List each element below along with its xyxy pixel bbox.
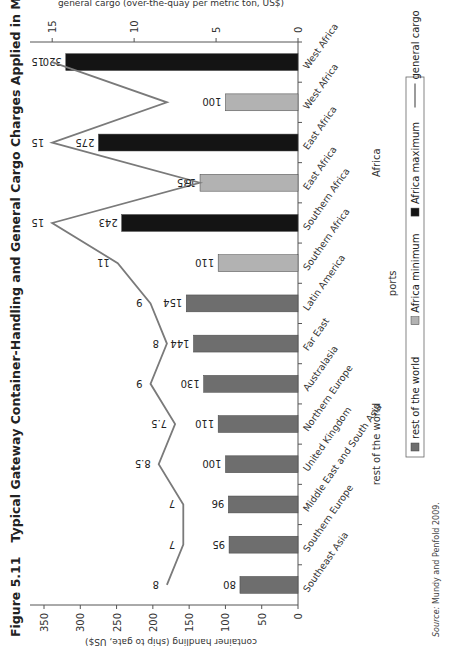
group-label-rest-of-world: rest of the world — [371, 403, 382, 485]
category-label: East Africa — [301, 104, 339, 152]
bar-united-kingdom — [225, 456, 298, 473]
bar-northern-europe — [218, 416, 298, 433]
bar-australasia — [204, 375, 298, 392]
cargo-value-label: 9 — [136, 297, 142, 308]
cargo-value-label: 7.5 — [151, 418, 167, 429]
bar-value-label: 154 — [163, 297, 182, 308]
y-tick-label: 250 — [112, 613, 123, 632]
bar-far-east — [193, 335, 298, 352]
rotated-figure-page: Figure 5.11Typical Gateway Container-Han… — [0, 0, 449, 657]
bar-east-africa — [200, 174, 298, 191]
bar-southern-africa — [122, 215, 298, 232]
legend-label: rest of the world — [410, 357, 421, 439]
cargo-value-label: 6 — [185, 177, 191, 188]
bar-value-label: 96 — [212, 498, 225, 509]
category-label: Northern Europe — [301, 362, 355, 433]
legend-label: Africa minimum — [410, 234, 421, 313]
cargo-value-label: 7 — [169, 498, 175, 509]
x-axis-title: ports — [387, 270, 398, 296]
category-label: Southern Europe — [301, 482, 356, 554]
bar-value-label: 243 — [99, 217, 118, 228]
cargo-value-label: 7 — [169, 539, 175, 550]
cargo-value-label: 8 — [153, 338, 159, 349]
cargo-value-label: 8.5 — [135, 458, 151, 469]
legend-swatch — [411, 443, 419, 451]
bar-value-label: 95 — [212, 539, 225, 550]
source-label: Source: — [432, 607, 441, 637]
y-tick-label: 350 — [39, 613, 50, 632]
bar-value-label: 110 — [195, 257, 214, 268]
bar-west-africa — [225, 94, 298, 111]
legend-swatch — [411, 317, 419, 325]
y2-axis-title: general cargo (over-the-quay per metric … — [58, 0, 284, 8]
bar-southern-africa — [218, 255, 298, 272]
y-axis-title: container handling (ship to gate, US$) — [85, 637, 257, 647]
legend-label: Africa maximum — [410, 122, 421, 204]
cargo-value-label: 11 — [97, 257, 110, 268]
bar-east-africa — [98, 134, 298, 151]
group-label-africa: Africa — [371, 148, 382, 177]
bar-value-label: 80 — [223, 579, 236, 590]
bar-southeast-asia — [240, 576, 298, 593]
y2-tick-label: 15 — [47, 20, 58, 33]
legend-swatch — [411, 208, 419, 216]
cargo-value-label: 15 — [31, 217, 44, 228]
bar-middle-east-and-south-asia — [228, 496, 298, 513]
combo-chart: 050100150200250300350051015container han… — [20, 0, 449, 657]
bar-value-label: 130 — [181, 378, 200, 389]
source-text: Mundy and Penfold 2009. — [432, 502, 441, 604]
y2-tick-label: 10 — [129, 20, 140, 33]
cargo-value-label: 15 — [31, 137, 44, 148]
y-tick-label: 100 — [220, 613, 231, 632]
legend-label: general cargo — [410, 10, 421, 79]
y-tick-label: 200 — [148, 613, 159, 632]
y-tick-label: 0 — [293, 613, 304, 619]
bar-value-label: 275 — [75, 137, 94, 148]
y-tick-label: 50 — [257, 613, 268, 626]
bar-value-label: 144 — [170, 338, 189, 349]
cargo-value-label: 8 — [153, 579, 159, 590]
bar-west-africa — [66, 54, 298, 71]
y-tick-label: 150 — [184, 613, 195, 632]
y2-tick-label: 5 — [211, 27, 222, 33]
bar-value-label: 110 — [195, 418, 214, 429]
bar-value-label: 100 — [202, 458, 221, 469]
source-note: Source: Mundy and Penfold 2009. — [432, 502, 441, 637]
bar-latin-america — [186, 295, 298, 312]
bar-value-label: 320 — [43, 56, 62, 67]
bar-southern-europe — [229, 536, 298, 553]
cargo-value-label: 15 — [31, 56, 44, 67]
category-label: Far East — [301, 315, 332, 353]
y2-tick-label: 0 — [293, 27, 304, 33]
y-tick-label: 300 — [75, 613, 86, 632]
bar-value-label: 100 — [202, 96, 221, 107]
cargo-value-label: 9 — [136, 378, 142, 389]
